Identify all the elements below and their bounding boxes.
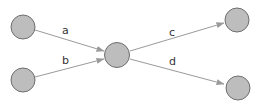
edge-label-a: a xyxy=(62,24,69,37)
edge-c xyxy=(130,23,224,51)
node-n-bottom-left xyxy=(11,68,35,92)
edge-a xyxy=(35,30,104,51)
edge-d xyxy=(130,59,224,84)
edge-label-c: c xyxy=(169,26,175,39)
node-n-bottom-right xyxy=(226,76,250,100)
node-n-top-right xyxy=(225,8,249,32)
edge-label-b: b xyxy=(62,54,69,67)
edge-label-d: d xyxy=(169,55,176,68)
node-n-top-left xyxy=(11,15,35,39)
nodes-group xyxy=(11,8,250,100)
node-n-center xyxy=(105,43,130,68)
graph-diagram: abcd xyxy=(0,0,260,103)
edge-b xyxy=(35,59,104,77)
